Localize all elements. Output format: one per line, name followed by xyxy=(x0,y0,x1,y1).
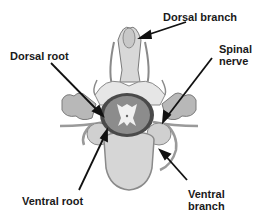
label-ventral-branch: Ventral branch xyxy=(188,188,225,212)
label-ventral-root: Ventral root xyxy=(22,195,83,207)
vertebral-body xyxy=(104,132,154,190)
label-dorsal-root: Dorsal root xyxy=(10,50,69,62)
label-dorsal-branch: Dorsal branch xyxy=(163,11,237,23)
transverse-process-left xyxy=(62,93,96,120)
spinal-cord xyxy=(100,93,154,137)
vertebra-diagram xyxy=(0,0,258,217)
label-spinal-nerve: Spinal nerve xyxy=(219,43,252,67)
